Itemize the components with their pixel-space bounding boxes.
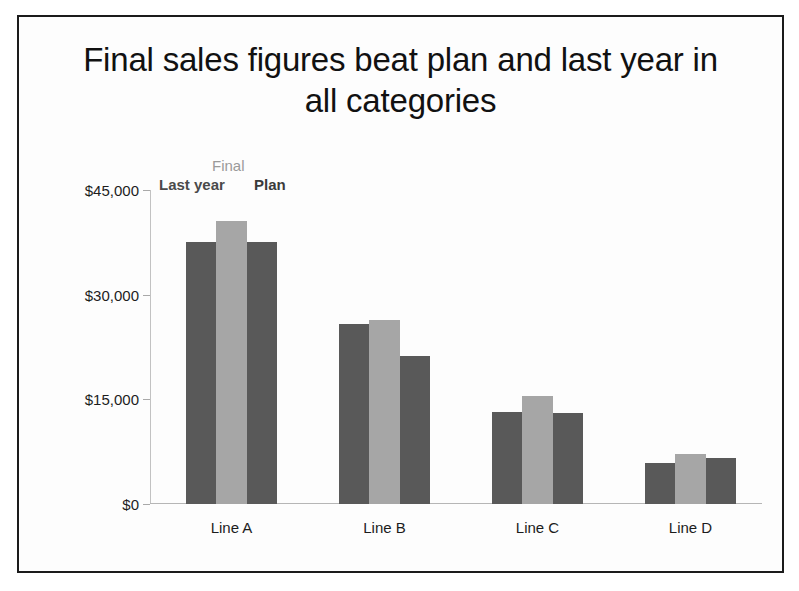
x-axis-category-label: Line C: [492, 519, 584, 536]
bar-last-year: [492, 412, 523, 504]
bar-last-year: [645, 463, 676, 504]
bar-final: [369, 320, 400, 504]
bar-last-year: [186, 242, 217, 504]
y-axis-tick-label: $45,000: [85, 182, 139, 199]
bar-group: Line D: [645, 190, 737, 504]
x-axis-category-label: Line A: [186, 519, 278, 536]
bar-plan: [553, 413, 584, 504]
plot-area: $0$15,000$30,000$45,000 Line ALine BLine…: [150, 190, 762, 504]
bar-last-year: [339, 324, 370, 504]
bar-plan: [400, 356, 431, 504]
bar-chart: Final Last year Plan $0$15,000$30,000$45…: [19, 17, 782, 571]
y-axis-tick-label: $30,000: [85, 286, 139, 303]
y-axis-tick-label: $15,000: [85, 391, 139, 408]
x-axis-category-label: Line D: [645, 519, 737, 536]
bar-final: [522, 396, 553, 504]
bar-group: Line B: [339, 190, 431, 504]
slide-frame: Final sales figures beat plan and last y…: [17, 15, 784, 573]
y-axis-line: [150, 190, 151, 504]
y-axis-tick-label: $0: [122, 496, 139, 513]
bar-group: Line C: [492, 190, 584, 504]
legend-item-final: Final: [212, 157, 245, 174]
bar-group: Line A: [186, 190, 278, 504]
y-axis-tick-mark: [143, 190, 150, 191]
y-axis-tick-mark: [143, 295, 150, 296]
bar-plan: [706, 458, 737, 504]
bar-final: [675, 454, 706, 504]
bar-final: [216, 221, 247, 504]
y-axis-tick-mark: [143, 504, 150, 505]
bar-plan: [247, 242, 278, 504]
y-axis-tick-mark: [143, 399, 150, 400]
x-axis-category-label: Line B: [339, 519, 431, 536]
